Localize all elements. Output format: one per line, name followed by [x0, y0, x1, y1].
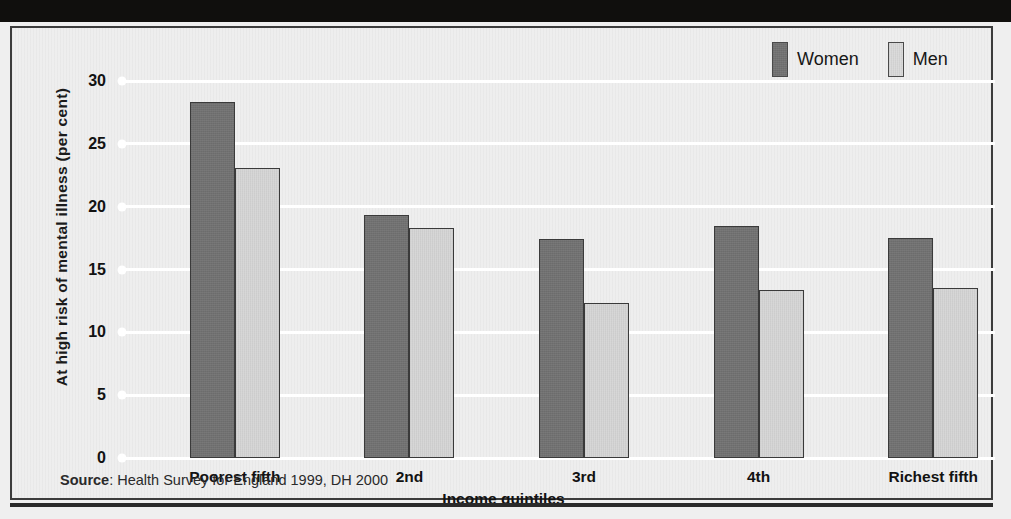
x-axis-label-4th: 4th — [747, 468, 770, 486]
x-axis-label-richest-fifth: Richest fifth — [888, 468, 978, 486]
title-band — [0, 0, 1011, 22]
y-axis-title: At high risk of mental illness (per cent… — [53, 37, 71, 437]
y-axis-tick-label: 5 — [60, 386, 106, 404]
bar-women-4th — [714, 226, 759, 458]
chart-page: At high risk of mental illness (per cent… — [0, 0, 1011, 519]
plot-area: 051015202530 — [122, 81, 995, 458]
bar-women-poorest-fifth — [190, 102, 235, 458]
legend-swatch-icon-men — [888, 42, 904, 77]
y-axis-tick-label: 20 — [60, 198, 106, 216]
y-axis-tick-label: 10 — [60, 323, 106, 341]
bar-men-richest-fifth — [933, 288, 978, 458]
bar-women-2nd — [364, 215, 409, 458]
gridline — [122, 142, 995, 145]
source-label: Source — [60, 472, 109, 488]
bar-men-3rd — [584, 303, 629, 458]
source-text: : Health Survey for England 1999, DH 200… — [109, 472, 388, 488]
bar-men-2nd — [409, 228, 454, 458]
y-axis-tick-dot — [118, 391, 127, 400]
bar-women-3rd — [539, 239, 584, 458]
legend-item-women[interactable]: Women — [772, 42, 859, 77]
x-axis-label-3rd: 3rd — [572, 468, 596, 486]
legend-label-men: Men — [913, 49, 948, 70]
y-axis-tick-dot — [118, 139, 127, 148]
x-axis-label-2nd: 2nd — [396, 468, 424, 486]
figure-frame: At high risk of mental illness (per cent… — [10, 26, 993, 500]
legend: Women Men — [772, 42, 968, 77]
y-axis-tick-dot — [118, 77, 127, 86]
y-axis-tick-label: 15 — [60, 261, 106, 279]
legend-item-men[interactable]: Men — [888, 42, 948, 77]
legend-label-women: Women — [797, 49, 859, 70]
y-axis-tick-dot — [118, 328, 127, 337]
y-axis-tick-dot — [118, 265, 127, 274]
y-axis-tick-label: 0 — [60, 449, 106, 467]
y-axis-tick-dot — [118, 454, 127, 463]
y-axis-tick-dot — [118, 202, 127, 211]
y-axis-tick-label: 25 — [60, 135, 106, 153]
bar-men-4th — [759, 290, 804, 458]
legend-swatch-icon-women — [772, 42, 788, 77]
gridline — [122, 80, 995, 83]
bar-men-poorest-fifth — [235, 168, 280, 458]
bar-women-richest-fifth — [888, 238, 933, 458]
bottom-rule — [10, 503, 993, 507]
source-note: Source: Health Survey for England 1999, … — [60, 472, 388, 488]
y-axis-tick-label: 30 — [60, 72, 106, 90]
